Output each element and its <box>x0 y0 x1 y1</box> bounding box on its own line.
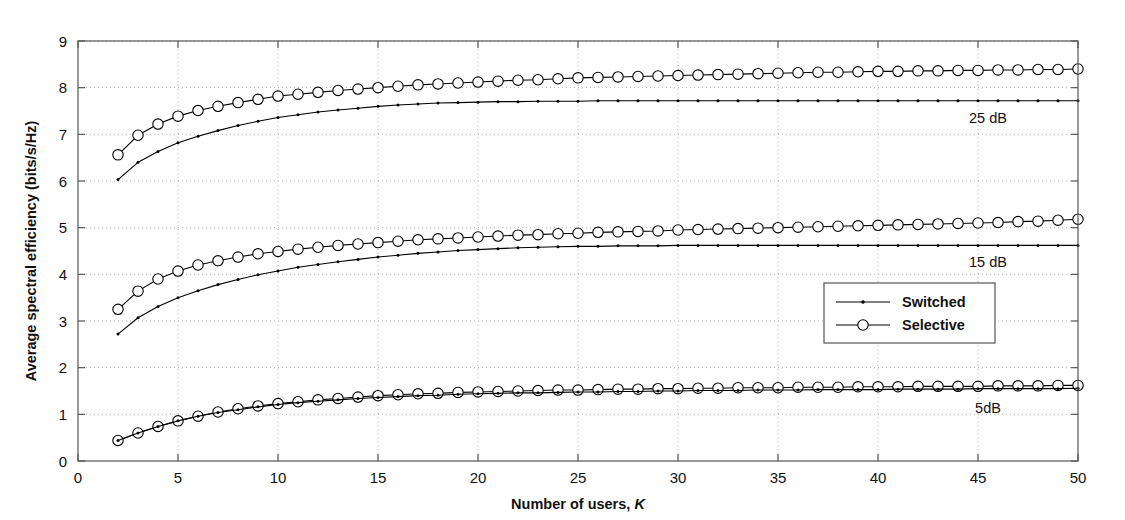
series-marker-circle <box>953 218 963 228</box>
series-marker-dot <box>457 249 460 252</box>
series-marker-dot <box>237 278 240 281</box>
y-tick-label: 4 <box>59 266 67 283</box>
series-marker-dot <box>497 392 500 395</box>
series-marker-dot <box>277 116 280 119</box>
series-marker-circle <box>593 72 603 82</box>
series-marker-dot <box>817 388 820 391</box>
series-marker-dot <box>557 391 560 394</box>
series-marker-circle <box>193 260 203 270</box>
series-marker-dot <box>377 256 380 259</box>
x-tick-label: 25 <box>570 469 587 486</box>
series-marker-dot <box>537 100 540 103</box>
series-marker-dot <box>177 419 180 422</box>
series-marker-circle <box>813 222 823 232</box>
series-marker-circle <box>893 220 903 230</box>
series-marker-circle <box>673 70 683 80</box>
series-marker-dot <box>457 101 460 104</box>
series-marker-circle <box>413 80 423 90</box>
series-marker-dot <box>277 403 280 406</box>
series-marker-dot <box>337 109 340 112</box>
series-marker-dot <box>777 389 780 392</box>
series-marker-dot <box>857 244 860 247</box>
series-marker-dot <box>257 273 260 276</box>
series-marker-circle <box>773 68 783 78</box>
series-marker-circle <box>493 76 503 86</box>
x-tick-label: 30 <box>670 469 687 486</box>
series-marker-circle <box>493 386 503 396</box>
series-marker-dot <box>997 99 1000 102</box>
legend-marker-circle <box>858 320 868 330</box>
series-marker-circle <box>133 130 143 140</box>
legend[interactable]: SwitchedSelective <box>824 283 995 343</box>
series-marker-circle <box>393 81 403 91</box>
series-marker-dot <box>1017 387 1020 390</box>
y-tick-label: 7 <box>59 126 67 143</box>
series-marker-dot <box>477 392 480 395</box>
series-marker-circle <box>633 226 643 236</box>
series-marker-circle <box>473 232 483 242</box>
series-marker-dot <box>137 432 140 435</box>
series-marker-dot <box>897 99 900 102</box>
series-marker-circle <box>633 71 643 81</box>
series-marker-dot <box>1057 387 1060 390</box>
series-marker-circle <box>673 225 683 235</box>
series-marker-circle <box>473 77 483 87</box>
series-marker-dot <box>617 390 620 393</box>
series-marker-dot <box>197 415 200 418</box>
series-marker-dot <box>697 389 700 392</box>
series-marker-dot <box>637 390 640 393</box>
series-marker-circle <box>473 387 483 397</box>
series-marker-circle <box>853 221 863 231</box>
series-marker-circle <box>313 242 323 252</box>
series-marker-dot <box>677 390 680 393</box>
series-marker-circle <box>253 249 263 259</box>
series-marker-circle <box>293 244 303 254</box>
series-marker-dot <box>177 296 180 299</box>
series-marker-dot <box>697 244 700 247</box>
series-marker-circle <box>333 240 343 250</box>
series-marker-circle <box>213 101 223 111</box>
series-marker-dot <box>797 389 800 392</box>
series-marker-dot <box>1037 99 1040 102</box>
series-marker-dot <box>597 390 600 393</box>
series-marker-dot <box>497 100 500 103</box>
series-marker-circle <box>113 150 123 160</box>
series-marker-dot <box>117 178 120 181</box>
series-marker-circle <box>433 388 443 398</box>
series-marker-circle <box>153 274 163 284</box>
series-marker-dot <box>497 247 500 250</box>
series-marker-dot <box>1017 99 1020 102</box>
series-marker-dot <box>577 100 580 103</box>
series-marker-circle <box>173 111 183 121</box>
series-marker-circle <box>493 231 503 241</box>
series-marker-circle <box>173 266 183 276</box>
x-tick-label: 45 <box>970 469 987 486</box>
series-marker-circle <box>193 105 203 115</box>
series-marker-dot <box>677 244 680 247</box>
series-marker-circle <box>273 246 283 256</box>
series-marker-dot <box>357 258 360 261</box>
series-marker-dot <box>417 252 420 255</box>
legend-entry-label: Selective <box>902 317 965 333</box>
series-marker-circle <box>573 73 583 83</box>
series-marker-dot <box>957 388 960 391</box>
series-marker-circle <box>1033 64 1043 74</box>
series-marker-circle <box>553 74 563 84</box>
series-marker-dot <box>437 250 440 253</box>
series-marker-dot <box>437 102 440 105</box>
series-marker-dot <box>877 244 880 247</box>
series-marker-dot <box>417 394 420 397</box>
series-marker-dot <box>437 394 440 397</box>
series-marker-dot <box>997 387 1000 390</box>
series-marker-circle <box>993 217 1003 227</box>
series-marker-circle <box>373 390 383 400</box>
series-marker-circle <box>433 234 443 244</box>
series-marker-circle <box>933 219 943 229</box>
series-marker-circle <box>533 75 543 85</box>
series-marker-dot <box>197 289 200 292</box>
series-marker-dot <box>1057 244 1060 247</box>
series-marker-dot <box>657 244 660 247</box>
series-marker-dot <box>517 391 520 394</box>
x-axis-title: Number of users, K <box>511 496 646 512</box>
series-marker-dot <box>397 254 400 257</box>
